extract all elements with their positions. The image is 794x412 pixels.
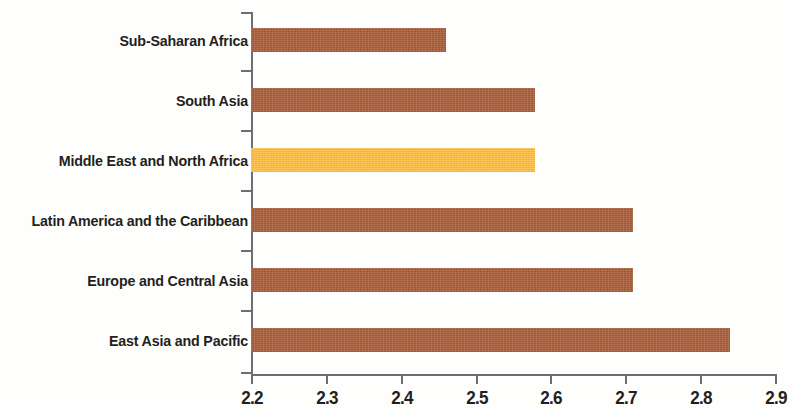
- y-axis-tick: [241, 250, 251, 252]
- bar-chart: Sub-Saharan Africa South Asia Middle Eas…: [0, 0, 794, 412]
- plot-area: 2.22.32.42.52.62.72.82.9: [251, 12, 775, 374]
- category-label-east-asia-and-pacific: East Asia and Pacific: [27, 333, 248, 349]
- x-axis-tick: [775, 374, 777, 384]
- x-axis-tick-label: 2.3: [300, 388, 354, 407]
- bar-latin-america-and-the-caribbean: [251, 208, 633, 232]
- bar-europe-and-central-asia: [251, 268, 633, 292]
- y-axis-tick: [241, 12, 251, 14]
- category-label-latin-america-and-the-caribbean: Latin America and the Caribbean: [27, 213, 248, 229]
- x-axis-tick-label: 2.9: [749, 388, 794, 407]
- x-axis-tick: [251, 374, 253, 384]
- x-axis-tick-label: 2.7: [599, 388, 653, 407]
- y-axis-tick: [241, 310, 251, 312]
- x-axis-tick-label: 2.5: [450, 388, 504, 407]
- bar-sub-saharan-africa: [251, 28, 446, 52]
- y-axis-line: [251, 12, 253, 374]
- y-axis-tick: [241, 190, 251, 192]
- category-label-south-asia: South Asia: [27, 93, 248, 109]
- x-axis-tick-label: 2.6: [524, 388, 578, 407]
- y-axis-tick: [241, 372, 251, 374]
- x-axis-tick-label: 2.8: [674, 388, 728, 407]
- x-axis-line: [251, 374, 775, 376]
- x-axis-tick: [625, 374, 627, 384]
- x-axis-tick-label: 2.4: [375, 388, 429, 407]
- category-label-sub-saharan-africa: Sub-Saharan Africa: [27, 33, 248, 49]
- x-axis-tick: [550, 374, 552, 384]
- bar-middle-east-and-north-africa: [251, 148, 535, 172]
- bar-south-asia: [251, 88, 535, 112]
- category-label-middle-east-and-north-africa: Middle East and North Africa: [27, 153, 248, 169]
- y-axis-tick: [241, 130, 251, 132]
- x-axis-tick: [326, 374, 328, 384]
- category-label-europe-and-central-asia: Europe and Central Asia: [27, 273, 248, 289]
- y-axis-tick: [241, 70, 251, 72]
- x-axis-tick: [476, 374, 478, 384]
- bar-east-asia-and-pacific: [251, 328, 730, 352]
- x-axis-tick: [700, 374, 702, 384]
- x-axis-tick: [401, 374, 403, 384]
- x-axis-tick-label: 2.2: [225, 388, 279, 407]
